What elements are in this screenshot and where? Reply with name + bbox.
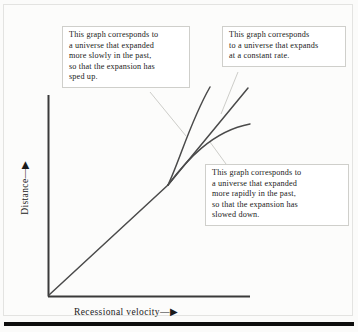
- callout-line: a universe that expanded: [212, 179, 343, 190]
- callout-line: This graph corresponds to: [212, 168, 343, 179]
- callout-line: so that the expansion has: [212, 200, 343, 211]
- y-axis-label-text: Distance: [20, 179, 30, 215]
- bottom-rule: [4, 322, 354, 326]
- callout-constant-rate: This graph corresponds to a universe tha…: [222, 26, 346, 67]
- callout-line: more rapidly in the past,: [212, 189, 343, 200]
- callout-line: more slowly in the past,: [69, 51, 184, 62]
- callout-expanded-rapidly: This graph corresponds to a universe tha…: [205, 164, 349, 226]
- leader-line-accelerating: [150, 92, 186, 136]
- callout-line: so that the expansion has: [69, 62, 184, 73]
- callout-expanded-slowly: This graph corresponds to a universe tha…: [62, 26, 190, 88]
- callout-line: This graph corresponds: [229, 30, 340, 41]
- curve-accelerating: [168, 87, 210, 185]
- callout-line: sped up.: [69, 72, 184, 83]
- curve-trunk: [49, 185, 168, 295]
- y-axis-arrow-icon: —▶: [19, 160, 30, 178]
- callout-line: slowed down.: [212, 210, 343, 221]
- callout-line: to a universe that expands: [229, 41, 340, 52]
- leader-line-constant: [221, 72, 238, 114]
- callout-line: at a constant rate.: [229, 51, 340, 62]
- leader-line-decelerating: [210, 142, 226, 164]
- y-axis-label: Distance —▶: [19, 140, 30, 236]
- x-axis-label-text: Recessional velocity: [74, 307, 160, 317]
- callout-line: a universe that expanded: [69, 41, 184, 52]
- hubble-diagram-figure: Distance —▶ Recessional velocity —▶ This…: [0, 0, 358, 332]
- x-axis-arrow-icon: —▶: [160, 306, 178, 317]
- callout-line: This graph corresponds to: [69, 30, 184, 41]
- x-axis-label: Recessional velocity —▶: [74, 306, 178, 317]
